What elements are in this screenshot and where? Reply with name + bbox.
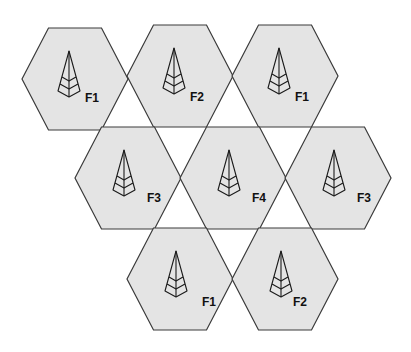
frequency-label: F1	[85, 91, 99, 105]
frequency-label: F2	[190, 90, 204, 104]
hexagon-cell	[22, 28, 128, 130]
hexagon-cell	[127, 25, 233, 127]
cell-2: F1	[232, 25, 338, 127]
cell-4: F4	[180, 127, 286, 229]
cell-7: F2	[232, 228, 338, 330]
frequency-label: F3	[357, 191, 371, 205]
cell-1: F2	[127, 25, 233, 127]
frequency-label: F1	[295, 90, 309, 104]
frequency-label: F1	[202, 295, 216, 309]
frequency-label: F2	[293, 295, 307, 309]
frequency-label: F3	[147, 191, 161, 205]
cell-0: F1	[22, 28, 128, 130]
cell-3: F3	[75, 127, 181, 229]
frequency-label: F4	[252, 191, 266, 205]
cell-6: F1	[127, 228, 233, 330]
cell-5: F3	[285, 127, 391, 229]
hexagon-cell	[232, 25, 338, 127]
frequency-reuse-diagram: F1 F2 F1 F3	[0, 0, 411, 352]
